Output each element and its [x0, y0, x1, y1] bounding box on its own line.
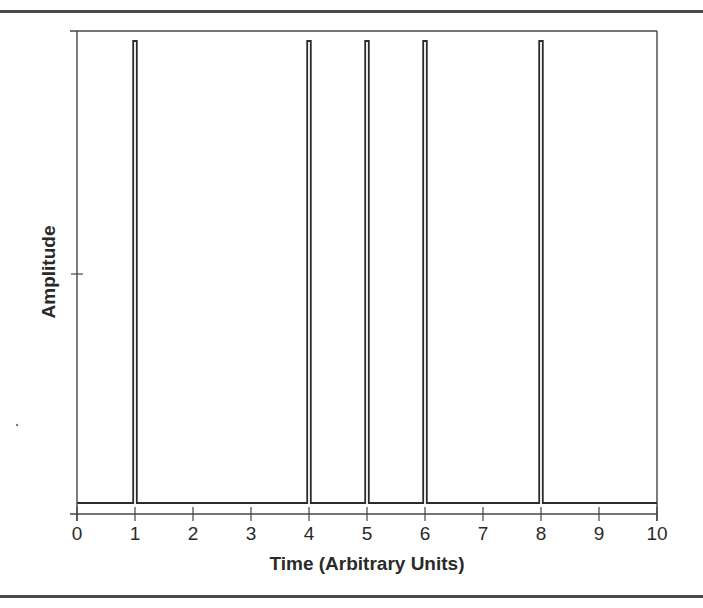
x-tick-label: 6: [420, 523, 431, 544]
x-tick-label: 3: [246, 523, 257, 544]
plot-frame: [70, 31, 657, 521]
x-tick-label: 8: [536, 523, 547, 544]
impulse-chart: 012345678910 Time (Arbitrary Units) Ampl…: [0, 0, 703, 608]
y-axis: [71, 31, 83, 521]
scan-speck: [16, 424, 18, 426]
x-tick-label: 0: [72, 523, 83, 544]
x-axis: 012345678910: [70, 507, 668, 544]
signal-trace: [77, 41, 657, 503]
x-tick-label: 5: [362, 523, 373, 544]
x-tick-label: 10: [646, 523, 667, 544]
x-tick-label: 4: [304, 523, 315, 544]
x-tick-label: 7: [478, 523, 489, 544]
y-axis-title: Amplitude: [38, 226, 59, 319]
x-tick-label: 1: [130, 523, 141, 544]
x-tick-label: 2: [188, 523, 199, 544]
x-tick-label: 9: [594, 523, 605, 544]
x-axis-title: Time (Arbitrary Units): [270, 553, 465, 574]
signal-line: [77, 41, 657, 503]
